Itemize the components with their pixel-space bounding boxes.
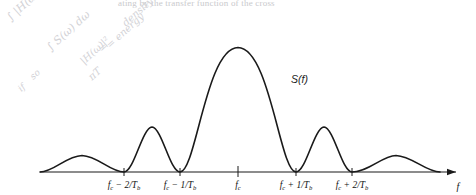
curve-label-sf: S(f) xyxy=(291,73,308,85)
tick-label-fc: fc xyxy=(235,180,241,191)
tick-label-fc-plus-2: fc + 2/Tb xyxy=(336,180,369,191)
x-axis xyxy=(40,169,456,175)
figure-canvas: ating by the transfer function of the cr… xyxy=(0,0,476,195)
tick-label-fc-plus-1: fc + 1/Tb xyxy=(280,180,313,191)
spectrum-plot: fc − 2/Tb fc − 1/Tb fc fc + 1/Tb fc + 2/… xyxy=(0,0,476,195)
tick-label-fc-minus-1: fc − 1/Tb xyxy=(164,180,197,191)
spectrum-curve xyxy=(40,48,440,173)
psd-sinc-curve xyxy=(40,48,440,173)
tick-label-fc-minus-2: fc − 2/Tb xyxy=(108,180,141,191)
x-axis-label: f xyxy=(457,181,461,192)
axis-arrowhead xyxy=(447,169,456,175)
tick-labels: fc − 2/Tb fc − 1/Tb fc fc + 1/Tb fc + 2/… xyxy=(108,180,369,191)
